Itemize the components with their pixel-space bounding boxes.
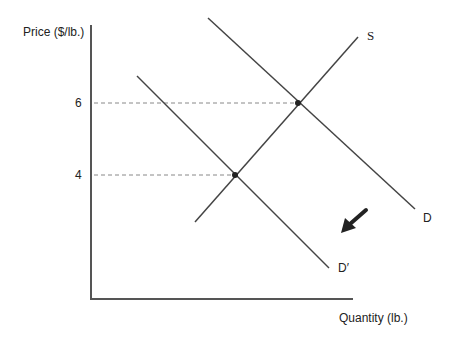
demand-curve	[208, 18, 415, 209]
tick-4-label: 4	[75, 168, 82, 182]
equilibrium-new	[232, 172, 238, 178]
y-axis-label: Price ($/lb.)	[23, 25, 84, 39]
shift-arrow-icon	[341, 210, 366, 233]
supply-label: S	[367, 28, 374, 44]
demand-label: D	[423, 211, 432, 225]
supply-demand-chart	[0, 0, 457, 338]
demand-prime-label: D′	[338, 261, 349, 275]
tick-6-label: 6	[75, 96, 82, 110]
supply-curve	[195, 37, 358, 222]
equilibrium-original	[295, 100, 301, 106]
x-axis-label: Quantity (lb.)	[339, 311, 408, 325]
